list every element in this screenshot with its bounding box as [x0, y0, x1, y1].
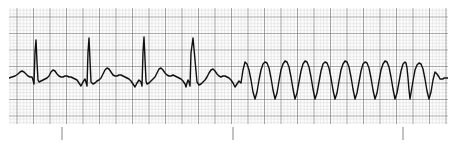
ecg-plot-area — [0, 0, 452, 144]
ecg-rhythm-strip — [0, 0, 452, 144]
